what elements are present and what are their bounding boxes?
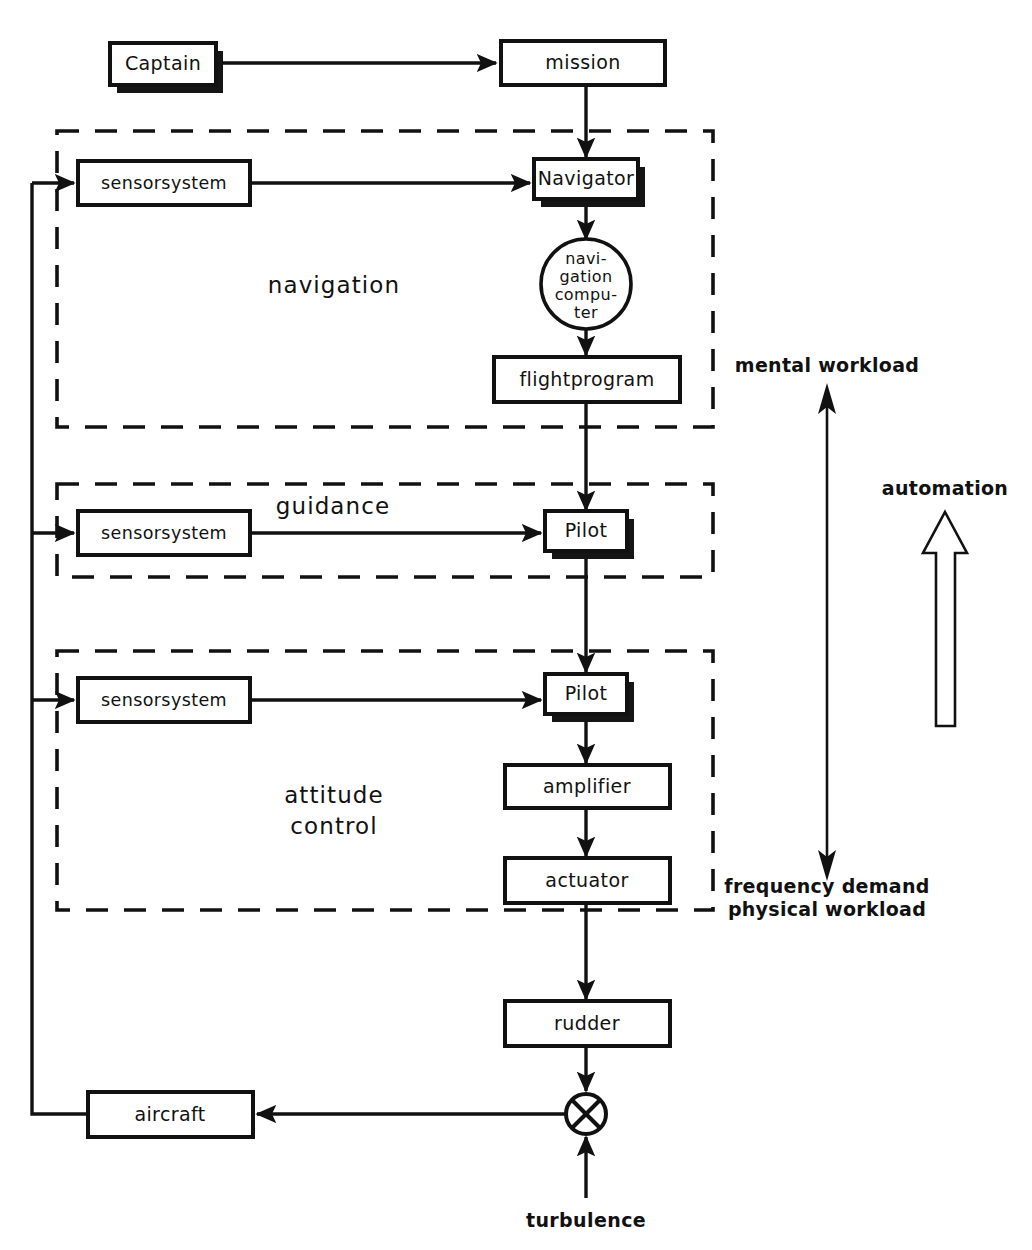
navigation-computer-line2: gation [559, 267, 612, 286]
node-flightprogram[interactable]: flightprogram [494, 357, 680, 402]
automation-arrow [923, 512, 967, 726]
sensorsystem-attitude-label: sensorsystem [101, 690, 227, 710]
block-diagram: navigation guidance attitude control [0, 0, 1032, 1250]
rudder-label: rudder [554, 1012, 620, 1034]
annotation-turbulence: turbulence [526, 1209, 646, 1231]
figure-canvas: navigation guidance attitude control [0, 0, 1032, 1250]
navigation-computer-line1: navi- [565, 249, 607, 268]
captain-label: Captain [125, 52, 201, 74]
node-navigator[interactable]: Navigator [534, 159, 645, 207]
flightprogram-label: flightprogram [519, 368, 654, 390]
node-aircraft[interactable]: aircraft [88, 1092, 253, 1137]
annotation-physical-workload: physical workload [728, 898, 926, 920]
mission-label: mission [545, 51, 620, 73]
node-pilot-guidance[interactable]: Pilot [545, 511, 634, 559]
group-label-attitude-control-line1: attitude [284, 782, 384, 808]
pilot-guidance-label: Pilot [565, 519, 608, 541]
navigation-computer-line4: ter [574, 303, 598, 322]
node-actuator[interactable]: actuator [505, 858, 670, 903]
node-sensorsystem-guidance[interactable]: sensorsystem [78, 511, 250, 555]
node-captain[interactable]: Captain [110, 43, 223, 93]
group-label-attitude-control-line2: control [290, 813, 377, 839]
node-sensorsystem-navigation[interactable]: sensorsystem [78, 161, 250, 205]
pilot-attitude-label: Pilot [565, 682, 608, 704]
amplifier-label: amplifier [543, 775, 631, 797]
feedback-rail-spine [32, 183, 88, 1114]
annotation-mental-workload: mental workload [735, 354, 919, 376]
node-summing-junction[interactable] [566, 1094, 606, 1134]
group-label-guidance: guidance [276, 493, 390, 519]
group-label-navigation: navigation [268, 272, 400, 298]
node-pilot-attitude[interactable]: Pilot [545, 674, 634, 722]
node-amplifier[interactable]: amplifier [505, 765, 670, 808]
node-mission[interactable]: mission [501, 41, 665, 85]
workload-axis-arrow [818, 383, 836, 881]
annotation-frequency-demand: frequency demand [724, 875, 929, 897]
navigation-computer-line3: compu- [555, 285, 618, 304]
annotation-automation: automation [882, 477, 1008, 499]
sensorsystem-navigation-label: sensorsystem [101, 173, 227, 193]
automation-arrow-shape [923, 512, 967, 726]
navigator-label: Navigator [538, 167, 635, 189]
node-sensorsystem-attitude[interactable]: sensorsystem [78, 678, 250, 722]
sensorsystem-guidance-label: sensorsystem [101, 523, 227, 543]
node-navigation-computer[interactable]: navi- gation compu- ter [541, 239, 631, 329]
node-rudder[interactable]: rudder [505, 1001, 670, 1046]
aircraft-label: aircraft [134, 1103, 205, 1125]
actuator-label: actuator [545, 869, 628, 891]
